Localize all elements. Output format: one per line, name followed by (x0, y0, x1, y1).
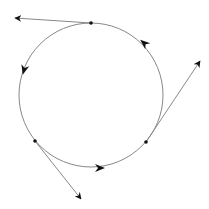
tangent-points (33, 21, 148, 144)
tangent-arrow-0 (15, 18, 91, 23)
tangent-arrow-2 (35, 141, 81, 199)
circle-arrowheads (19, 37, 151, 172)
circle-path (19, 23, 163, 167)
tangent-arrow-1 (146, 61, 200, 142)
circle-tangent-diagram (0, 0, 209, 209)
diagram-canvas (0, 0, 209, 209)
tangent-arrows (15, 18, 200, 199)
point-lower-left (33, 139, 37, 143)
point-lower-right (144, 140, 148, 144)
point-top (89, 21, 93, 25)
arrowhead-icon (19, 64, 29, 76)
arrowhead-icon (95, 164, 105, 172)
arrowhead-icon (138, 37, 151, 50)
